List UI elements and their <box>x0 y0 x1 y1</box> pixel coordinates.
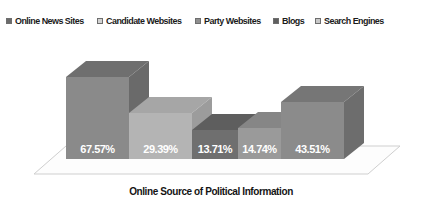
bar-value-label: 29.39% <box>143 143 178 155</box>
bar-value-label: 43.51% <box>295 143 330 155</box>
legend-item-label: Party Websites <box>204 16 261 26</box>
legend-swatch-icon <box>6 18 12 24</box>
bar-search-engines[interactable]: 43.51% <box>281 86 364 159</box>
legend-swatch-icon <box>97 18 103 24</box>
chart-3d-column: Online News Sites Candidate Websites Par… <box>0 0 422 208</box>
legend-item-label: Candidate Websites <box>106 16 181 26</box>
legend-item-label: Blogs <box>282 16 304 26</box>
legend-swatch-icon <box>273 18 279 24</box>
legend-item-blogs[interactable]: Blogs <box>273 16 306 26</box>
chart-legend: Online News Sites Candidate Websites Par… <box>0 12 422 30</box>
legend-item-party-websites[interactable]: Party Websites <box>195 16 264 26</box>
chart-svg-canvas: 67.57% 29.39% 13.71% 14.74% <box>0 48 422 182</box>
bar-value-label: 13.71% <box>198 143 233 155</box>
legend-swatch-icon <box>315 18 321 24</box>
chart-plot-area: 67.57% 29.39% 13.71% 14.74% <box>0 48 422 182</box>
legend-item-online-news-sites[interactable]: Online News Sites <box>6 16 88 26</box>
legend-item-candidate-websites[interactable]: Candidate Websites <box>97 16 186 26</box>
bar-value-label: 67.57% <box>80 143 115 155</box>
legend-item-label: Search Engines <box>324 16 384 26</box>
legend-item-label: Online News Sites <box>15 16 84 26</box>
legend-swatch-icon <box>195 18 201 24</box>
x-axis-title: Online Source of Political Information <box>0 186 422 197</box>
bar-value-label: 14.74% <box>242 143 277 155</box>
legend-item-search-engines[interactable]: Search Engines <box>315 16 388 26</box>
